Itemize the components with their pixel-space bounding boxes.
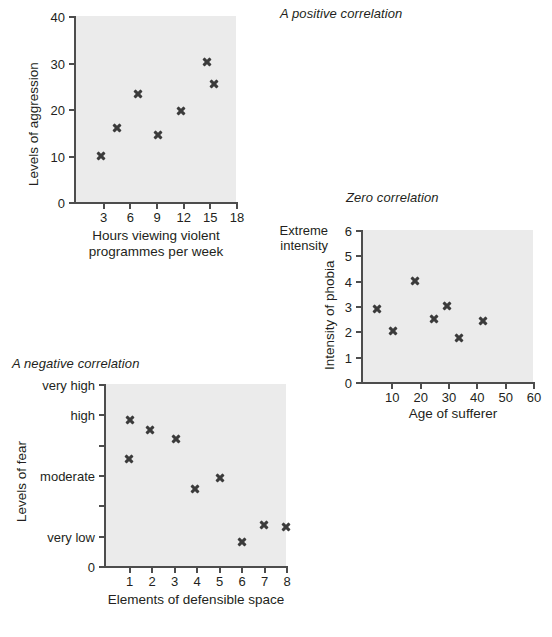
x-tick-label-negative: 6 (238, 574, 245, 589)
x-tick-label-positive: 15 (203, 210, 217, 225)
y-tick-label-negative: very low (20, 529, 95, 544)
x-tick-zero (505, 384, 507, 389)
x-tick-label-positive: 3 (100, 210, 107, 225)
y-tick-negative (99, 445, 104, 447)
x-tick-zero (420, 384, 422, 389)
y-tick-label-negative: high (20, 408, 95, 423)
figure-negative-correlation: A negative correlation 0 very low modera… (0, 350, 310, 610)
x-tick-label-zero: 50 (498, 390, 512, 405)
data-point (111, 122, 122, 133)
y-tick-positive (69, 202, 74, 204)
x-tick-label-negative: 4 (193, 574, 200, 589)
data-point (95, 151, 106, 162)
x-tick-negative (264, 568, 266, 573)
data-point (124, 415, 135, 426)
y-tick-label-positive: 10 (40, 149, 65, 164)
plot-area-negative (106, 384, 286, 566)
y-tick-negative (99, 566, 104, 568)
data-point (170, 433, 181, 444)
y-tick-label-positive: 20 (40, 103, 65, 118)
y-axis-title-negative: Levels of fear (14, 441, 29, 522)
y-tick-label-positive: 0 (40, 196, 65, 211)
x-axis-title-positive: Hours viewing violent programmes per wee… (66, 228, 246, 261)
x-tick-label-positive: 6 (127, 210, 134, 225)
x-tick-positive (156, 204, 158, 209)
y-tick-negative (99, 384, 104, 386)
x-tick-positive (129, 204, 131, 209)
y-tick-negative (99, 475, 104, 477)
x-tick-zero (448, 384, 450, 389)
data-point (478, 316, 489, 327)
x-tick-label-zero: 40 (470, 390, 484, 405)
y-axis-title-positive: Levels of aggression (26, 62, 41, 186)
data-point (258, 520, 269, 531)
x-tick-negative (151, 568, 153, 573)
y-tick-positive (69, 63, 74, 65)
x-tick-label-positive: 9 (153, 210, 160, 225)
chart-title-zero: Zero correlation (346, 190, 439, 205)
data-point (175, 105, 186, 116)
data-point (410, 275, 421, 286)
y-tick-zero (356, 230, 361, 232)
y-tick-label-negative: very high (20, 378, 95, 393)
x-tick-label-negative: 8 (283, 574, 290, 589)
x-tick-positive (209, 204, 211, 209)
y-tick-positive (69, 16, 74, 18)
chart-title-negative: A negative correlation (12, 356, 139, 371)
y-tick-label-zero: 0 (332, 376, 352, 391)
data-point (237, 536, 248, 547)
y-tick-negative (99, 536, 104, 538)
data-point (144, 425, 155, 436)
x-tick-label-negative: 2 (148, 574, 155, 589)
data-point (152, 130, 163, 141)
x-tick-negative (241, 568, 243, 573)
data-point (428, 313, 439, 324)
y-tick-zero (356, 281, 361, 283)
x-tick-negative (286, 568, 288, 573)
y-tick-label-zero: 6 (332, 224, 352, 239)
figure-zero-correlation: Zero correlation 0 1 2 3 4 5 6 Extreme i… (300, 190, 552, 420)
chart-title-positive: A positive correlation (280, 6, 402, 21)
x-tick-zero (391, 384, 393, 389)
x-tick-label-positive: 18 (230, 210, 244, 225)
y-axis-title-zero: Intensity of phobia (322, 260, 337, 370)
y-tick-negative (99, 414, 104, 416)
y-tick-label-negative: moderate (20, 469, 95, 484)
y-tick-label-positive: 30 (40, 56, 65, 71)
x-tick-positive (236, 204, 238, 209)
y-tick-zero (356, 306, 361, 308)
x-tick-label-zero: 30 (442, 390, 456, 405)
y-tick-zero (356, 382, 361, 384)
x-tick-label-positive: 12 (176, 210, 190, 225)
x-tick-zero (476, 384, 478, 389)
x-tick-label-negative: 7 (261, 574, 268, 589)
y-tick-label-negative: 0 (20, 560, 95, 575)
data-point (201, 57, 212, 68)
x-tick-label-zero: 60 (527, 390, 541, 405)
x-tick-zero (533, 384, 535, 389)
data-point (133, 88, 144, 99)
y-axis-top-label-zero: Extreme intensity (250, 223, 328, 254)
y-tick-zero (356, 357, 361, 359)
data-point (387, 326, 398, 337)
x-axis-title-negative: Elements of defensible space (101, 592, 291, 608)
y-tick-positive (69, 109, 74, 111)
y-tick-zero (356, 255, 361, 257)
x-tick-negative (219, 568, 221, 573)
data-point (454, 332, 465, 343)
y-axis-zero (361, 230, 363, 384)
x-tick-positive (103, 204, 105, 209)
data-point (189, 484, 200, 495)
x-tick-label-zero: 10 (385, 390, 399, 405)
y-tick-zero (356, 331, 361, 333)
x-tick-label-zero: 20 (413, 390, 427, 405)
data-point (372, 303, 383, 314)
x-tick-negative (196, 568, 198, 573)
data-point (124, 453, 135, 464)
x-tick-label-negative: 1 (126, 574, 133, 589)
plot-area-positive (76, 16, 236, 202)
y-axis-negative (104, 384, 106, 568)
x-axis-title-zero: Age of sufferer (373, 406, 533, 422)
data-point (441, 301, 452, 312)
y-tick-positive (69, 156, 74, 158)
